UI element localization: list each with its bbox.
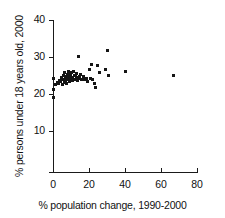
- plot-area: [53, 20, 197, 168]
- data-point: [52, 88, 55, 91]
- data-point: [96, 64, 99, 67]
- x-tick-mark: [53, 168, 54, 173]
- x-axis-title: % population change, 1990-2000: [0, 199, 225, 211]
- x-tick-mark: [161, 168, 162, 173]
- data-point: [98, 71, 101, 74]
- data-point: [107, 74, 110, 77]
- x-tick-label: 60: [148, 178, 174, 190]
- x-tick-label: 40: [112, 178, 138, 190]
- data-point: [77, 55, 80, 58]
- data-point: [52, 77, 55, 80]
- data-point: [93, 82, 96, 85]
- x-tick-mark: [89, 168, 90, 173]
- x-tick-label: 20: [76, 178, 102, 190]
- data-point: [172, 74, 175, 77]
- x-tick-label: 0: [40, 178, 66, 190]
- data-point: [124, 70, 127, 73]
- x-tick-label: 80: [184, 178, 210, 190]
- data-point: [106, 49, 109, 52]
- x-tick-mark: [197, 168, 198, 173]
- data-point: [90, 63, 93, 66]
- data-point: [52, 96, 55, 99]
- data-point: [91, 78, 94, 81]
- x-tick-mark: [125, 168, 126, 173]
- scatter-plot-figure: 10203040 020406080 % population change, …: [0, 0, 225, 218]
- data-point: [94, 86, 97, 89]
- data-point: [104, 68, 107, 71]
- data-point: [88, 68, 91, 71]
- y-axis-title: % persons under 18 years old, 2000: [13, 6, 25, 186]
- x-axis-line: [49, 172, 197, 173]
